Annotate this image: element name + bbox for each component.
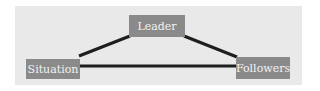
edge-leader-followers xyxy=(184,36,237,57)
node-leader-label: Leader xyxy=(137,20,176,33)
node-situation: Situation xyxy=(26,59,80,79)
node-situation-label: Situation xyxy=(28,63,79,76)
node-followers-label: Followers xyxy=(236,62,290,75)
edge-leader-situation xyxy=(79,36,130,56)
node-leader: Leader xyxy=(129,15,185,37)
node-followers: Followers xyxy=(236,57,290,79)
